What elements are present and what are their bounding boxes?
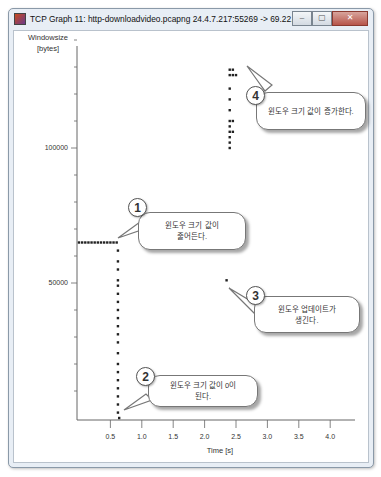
y-tick-100000: 100000 (45, 144, 68, 151)
data-point (229, 141, 231, 143)
y-axis-label-line2: [bytes] (37, 44, 59, 53)
data-point (117, 379, 119, 381)
y-tick-50000: 50000 (49, 279, 69, 286)
data-point (100, 241, 102, 243)
data-point (117, 387, 119, 389)
callout-1-text-line2: 줄어든다. (165, 231, 218, 242)
data-point (117, 363, 119, 365)
data-point (232, 120, 234, 122)
data-point (109, 241, 111, 243)
x-tick-label: 3.0 (263, 433, 273, 440)
data-point (117, 309, 119, 311)
data-point (229, 98, 231, 100)
data-point (117, 249, 119, 251)
x-tick-label: 2.0 (200, 433, 210, 440)
data-point (103, 241, 105, 243)
callout-2-text-line2: 된다. (170, 391, 236, 402)
callout-3-text-line1: 윈도우 업데이트가 (278, 304, 336, 315)
data-point (229, 147, 231, 149)
callout-3-text-line2: 생긴다. (278, 315, 336, 326)
data-point (78, 241, 80, 243)
x-tick-label: 1.0 (137, 433, 147, 440)
callout-1: 윈도우 크기 값이줄어든다. (138, 212, 246, 250)
y-axis-label-line1: Windowsize (28, 33, 68, 42)
data-point (117, 293, 119, 295)
x-tick-label: 4.0 (325, 433, 335, 440)
data-point (229, 109, 231, 111)
data-point (235, 74, 237, 76)
callout-2-text-line1: 윈도우 크기 값이 0이 (170, 380, 236, 391)
callout-1-text-line1: 윈도우 크기 값이 (165, 220, 218, 231)
data-point (229, 120, 231, 122)
data-point (94, 241, 96, 243)
data-point (115, 241, 117, 243)
data-point (112, 241, 114, 243)
data-point (81, 241, 83, 243)
data-point (117, 333, 119, 335)
data-point (117, 403, 119, 405)
callout-1-number: 1 (128, 198, 147, 217)
x-tick-label: 2.5 (231, 433, 241, 440)
data-point (118, 417, 120, 419)
data-point (87, 241, 89, 243)
data-point (229, 69, 231, 71)
data-point (232, 69, 234, 71)
data-point (117, 352, 119, 354)
data-point (106, 241, 108, 243)
callout-4-text-line1: 윈도우 크기 값이 증가한다. (268, 106, 353, 117)
data-point (229, 125, 231, 127)
x-axis-ticks: 0.51.01.52.02.53.03.54.0 (106, 420, 336, 440)
x-tick-label: 3.5 (294, 433, 304, 440)
data-point (117, 341, 119, 343)
data-point (117, 325, 119, 327)
data-point (117, 279, 119, 281)
data-point (229, 136, 231, 138)
callout-2-number: 2 (136, 367, 155, 386)
callout-4-number: 4 (246, 86, 265, 105)
callout-3: 윈도우 업데이트가생긴다. (254, 296, 360, 333)
data-point (97, 241, 99, 243)
data-point (90, 241, 92, 243)
x-tick-label: 1.5 (168, 433, 178, 440)
callout-3-number: 3 (246, 286, 265, 305)
y-axis-ticks (71, 40, 77, 391)
data-point (229, 131, 231, 133)
data-point (117, 411, 119, 413)
data-point (117, 268, 119, 270)
callout-4: 윈도우 크기 값이 증가한다. (256, 92, 366, 130)
data-point (117, 317, 119, 319)
data-point (229, 87, 231, 89)
callout-2: 윈도우 크기 값이 0이된다. (148, 375, 258, 407)
data-point (117, 301, 119, 303)
data-point (117, 395, 119, 397)
x-axis-label: Time [s] (207, 446, 233, 455)
data-point (117, 371, 119, 373)
data-point (232, 74, 234, 76)
data-point (232, 131, 234, 133)
x-tick-label: 0.5 (106, 433, 116, 440)
data-point (117, 285, 119, 287)
data-point (84, 241, 86, 243)
data-point (229, 74, 231, 76)
data-point (225, 279, 227, 281)
data-point (117, 260, 119, 262)
